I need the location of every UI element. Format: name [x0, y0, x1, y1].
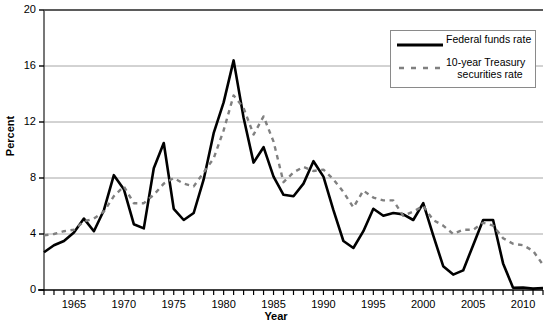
x-tick-label: 2000 [403, 299, 443, 310]
x-tick-label: 1985 [254, 299, 294, 310]
y-tick-label: 4 [10, 228, 36, 239]
x-tick-label: 1965 [54, 299, 94, 310]
x-tick-label: 1980 [204, 299, 244, 310]
x-tick-label: 2005 [453, 299, 493, 310]
chart-container: Percent Year 201612840 19651970197519801… [0, 0, 552, 328]
x-tick-label: 1995 [353, 299, 393, 310]
x-tick-label: 2010 [503, 299, 543, 310]
legend-label-federal-funds-rate: Federal funds rate [446, 33, 534, 45]
x-tick-label: 1990 [303, 299, 343, 310]
legend-item-treasury-rate: 10-year Treasury securities rate [391, 57, 537, 83]
x-tick-label: 1970 [104, 299, 144, 310]
series-line-federal-funds-rate [44, 60, 543, 288]
x-tick-label: 1975 [154, 299, 194, 310]
y-tick-label: 0 [10, 284, 36, 295]
y-tick-label: 8 [10, 172, 36, 183]
y-tick-label: 16 [10, 60, 36, 71]
legend-swatch-dashed-line [397, 62, 443, 74]
y-tick-label: 12 [10, 116, 36, 127]
legend-swatch-solid-line [397, 39, 443, 51]
legend-label-treasury-line1: 10-year Treasury [446, 56, 534, 68]
legend: Federal funds rate 10-year Treasury secu… [390, 30, 536, 88]
y-tick-label: 20 [10, 4, 36, 15]
legend-label-treasury-rate: 10-year Treasury securities rate [446, 56, 534, 80]
legend-label-treasury-line2: securities rate [446, 68, 534, 80]
